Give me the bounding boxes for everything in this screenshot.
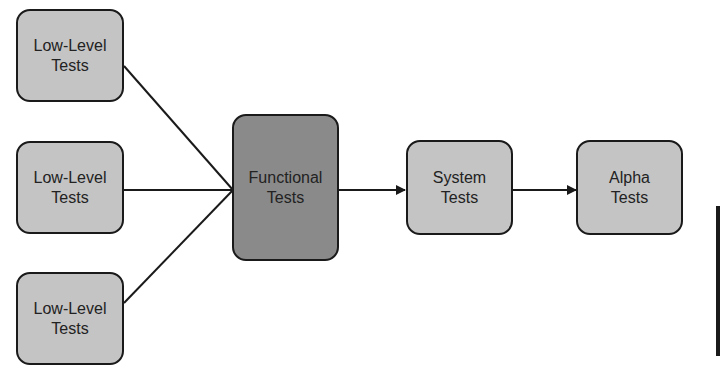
node-system-tests: SystemTests (406, 140, 513, 235)
node-label-line1: Alpha (609, 168, 650, 188)
node-low-level-tests-3: Low-LevelTests (16, 272, 124, 365)
node-label-line2: Tests (34, 188, 107, 208)
cropped-edge-bar (716, 206, 720, 356)
node-alpha-tests: AlphaTests (576, 140, 683, 235)
node-functional-tests: FunctionalTests (232, 114, 339, 261)
node-label-line2: Tests (249, 188, 323, 208)
node-label-line2: Tests (609, 188, 650, 208)
node-label-line1: System (433, 168, 486, 188)
node-label-line1: Low-Level (34, 299, 107, 319)
node-label-line2: Tests (433, 188, 486, 208)
edge-low1-functional (124, 66, 233, 190)
node-low-level-tests-1: Low-LevelTests (16, 9, 124, 102)
test-flow-diagram: Low-LevelTests Low-LevelTests Low-LevelT… (0, 0, 721, 370)
node-label-line1: Functional (249, 168, 323, 188)
node-label-line1: Low-Level (34, 168, 107, 188)
node-label-line2: Tests (34, 319, 107, 339)
node-label-line2: Tests (34, 56, 107, 76)
node-label-line1: Low-Level (34, 36, 107, 56)
edge-low3-functional (124, 190, 233, 303)
node-low-level-tests-2: Low-LevelTests (16, 141, 124, 234)
